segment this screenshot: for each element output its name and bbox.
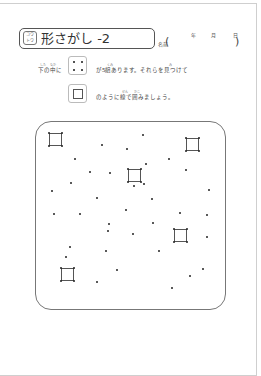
puzzle-dot (168, 158, 170, 160)
example-dot (81, 61, 83, 63)
puzzle-dot (132, 233, 134, 235)
puzzle-dot (65, 256, 67, 258)
date-day-label: 日 (233, 31, 238, 38)
puzzle-dot (143, 183, 145, 185)
puzzle-dot (69, 246, 71, 248)
square-corner-dot (60, 280, 62, 282)
puzzle-dot (158, 250, 160, 252)
puzzle-dot (145, 163, 147, 165)
puzzle-dot (206, 214, 208, 216)
square-corner-dot (140, 181, 142, 183)
dot-square (186, 138, 199, 151)
puzzle-dot (133, 185, 135, 187)
square-corner-dot (198, 150, 200, 152)
puzzle-dot (107, 230, 109, 232)
instruction-prefix: 下の中に (38, 66, 62, 74)
square-corner-dot (185, 137, 187, 139)
square-corner-dot (140, 168, 142, 170)
example-dot (73, 61, 75, 63)
badge-bottom-text: トウ (24, 38, 36, 44)
puzzle-dot (109, 172, 111, 174)
square-corner-dot (127, 181, 129, 183)
example-dot (81, 69, 83, 71)
puzzle-dot (70, 182, 72, 184)
puzzle-dot (185, 169, 187, 171)
dot-square (174, 229, 187, 242)
square-corner-dot (186, 228, 188, 230)
square-corner-dot (198, 137, 200, 139)
puzzle-dot (189, 275, 191, 277)
square-corner-dot (186, 241, 188, 243)
puzzle-dot (96, 197, 98, 199)
puzzle-dot (101, 144, 103, 146)
puzzle-dot (151, 198, 153, 200)
puzzle-dot (51, 190, 53, 192)
instruction-line1: が5組あります。それらを見つけて (96, 66, 189, 74)
square-corner-dot (173, 241, 175, 243)
puzzle-dot (105, 250, 107, 252)
example-square-box (68, 84, 87, 103)
square-corner-dot (60, 267, 62, 269)
puzzle-dot (126, 148, 128, 150)
example-dots-box (68, 56, 87, 75)
puzzle-dot (79, 213, 81, 215)
square-corner-dot (48, 132, 50, 134)
puzzle-dot (96, 281, 98, 283)
title-box: コウ トウ 形さがし -2 (19, 28, 155, 49)
square-corner-dot (48, 145, 50, 147)
puzzle-dot (202, 268, 204, 270)
square-corner-dot (61, 145, 63, 147)
square-corner-dot (61, 132, 63, 134)
square-corner-dot (127, 168, 129, 170)
puzzle-dot (142, 134, 144, 136)
puzzle-dot (53, 213, 55, 215)
date-month-label: 月 (211, 31, 216, 38)
puzzle-dot (152, 222, 154, 224)
puzzle-dot (125, 209, 127, 211)
puzzle-dot (116, 269, 118, 271)
dot-square (128, 169, 141, 182)
puzzle-dot (179, 212, 181, 214)
square-corner-dot (185, 150, 187, 152)
instruction-line2: のように線で囲みましょう。 (96, 93, 174, 101)
puzzle-dot (74, 158, 76, 160)
dot-square (61, 268, 74, 281)
example-dot (73, 69, 75, 71)
puzzle-dot (208, 189, 210, 191)
puzzle-dot (89, 171, 91, 173)
square-corner-dot (73, 267, 75, 269)
dot-square (49, 133, 62, 146)
puzzle-dot (206, 236, 208, 238)
name-field-open: ( (165, 35, 169, 48)
square-corner-dot (173, 228, 175, 230)
puzzle-dot (108, 223, 110, 225)
date-year-label: 年 (191, 31, 196, 38)
square-corner-dot (73, 280, 75, 282)
grade-badge-icon: コウ トウ (23, 31, 37, 45)
example-square (73, 89, 83, 99)
puzzle-dot (171, 287, 173, 289)
worksheet-title: 形さがし -2 (41, 30, 110, 47)
